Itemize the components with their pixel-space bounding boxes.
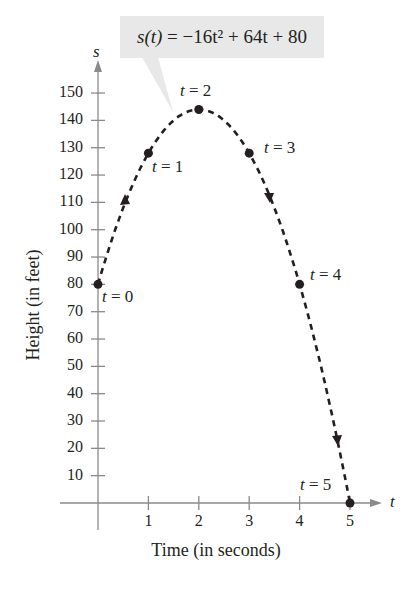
x-tick-label: 3 <box>239 512 259 530</box>
point-label-t0: t = 0 <box>102 287 133 307</box>
point-label-t1: t = 1 <box>152 157 183 177</box>
data-point <box>346 499 355 508</box>
x-axis-arrow-icon <box>370 499 382 507</box>
y-tick-label: 120 <box>43 165 83 183</box>
y-axis-label: Height (in feet) <box>23 250 44 361</box>
callout-pointer <box>142 57 173 112</box>
trajectory-curve <box>98 109 350 503</box>
x-tick-label: 4 <box>290 512 310 530</box>
point-label-t2: t = 2 <box>180 81 211 101</box>
y-tick-label: 20 <box>43 438 83 456</box>
y-tick-label: 90 <box>43 247 83 265</box>
x-axis-label: Time (in seconds) <box>0 540 412 561</box>
y-tick-label: 110 <box>43 192 83 210</box>
y-tick-label: 80 <box>43 274 83 292</box>
equation-text: s(t) = −16t² + 64t + 80 <box>120 16 324 58</box>
x-tick-label: 1 <box>138 512 158 530</box>
data-point <box>295 280 304 289</box>
equation-callout: s(t) = −16t² + 64t + 80 <box>120 16 324 58</box>
point-label-t4: t = 4 <box>310 265 341 285</box>
y-axis-symbol: s <box>93 42 100 62</box>
y-tick-label: 100 <box>43 220 83 238</box>
y-tick-label: 10 <box>43 466 83 484</box>
point-label-t3: t = 3 <box>264 138 295 158</box>
y-tick-label: 50 <box>43 356 83 374</box>
x-axis-symbol: t <box>390 492 395 512</box>
y-tick-label: 140 <box>43 110 83 128</box>
chart-figure: s(t) = −16t² + 64t + 80 s t 102030405060… <box>0 0 412 592</box>
y-tick-label: 60 <box>43 329 83 347</box>
y-tick-label: 130 <box>43 138 83 156</box>
data-point <box>194 105 203 114</box>
x-tick-label: 2 <box>189 512 209 530</box>
y-tick-label: 30 <box>43 411 83 429</box>
point-label-t5: t = 5 <box>300 475 331 495</box>
x-tick-label: 5 <box>340 512 360 530</box>
y-tick-label: 70 <box>43 302 83 320</box>
y-tick-label: 40 <box>43 384 83 402</box>
data-point <box>245 149 254 158</box>
y-tick-label: 150 <box>43 83 83 101</box>
